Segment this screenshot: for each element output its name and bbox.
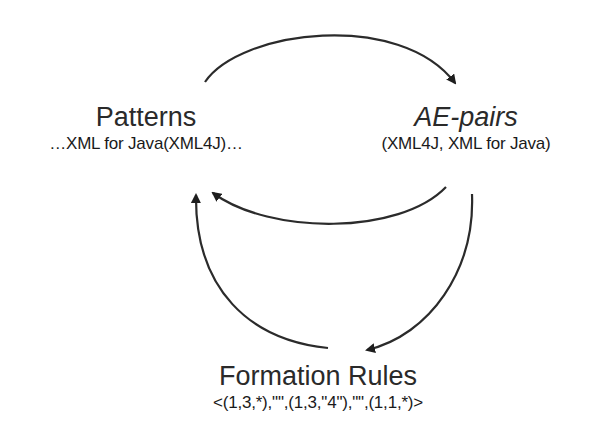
patterns-title: Patterns <box>18 101 274 133</box>
node-patterns: Patterns …XML for Java(XML4J)… <box>18 101 274 155</box>
formation-rules-subtitle: <(1,3,*),"",(1,3,"4"),"",(1,1,*)> <box>168 392 468 414</box>
node-ae-pairs: AE-pairs (XML4J, XML for Java) <box>338 101 594 155</box>
arrow-ae-pairs-to-patterns <box>213 187 446 224</box>
formation-rules-title: Formation Rules <box>168 360 468 392</box>
node-formation-rules: Formation Rules <(1,3,*),"",(1,3,"4"),""… <box>168 360 468 414</box>
patterns-subtitle: …XML for Java(XML4J)… <box>18 133 274 155</box>
arrow-patterns-to-ae-pairs <box>205 35 455 83</box>
ae-pairs-title: AE-pairs <box>338 101 594 133</box>
arrow-formation-rules-to-patterns <box>196 195 328 348</box>
ae-pairs-subtitle: (XML4J, XML for Java) <box>338 133 594 155</box>
